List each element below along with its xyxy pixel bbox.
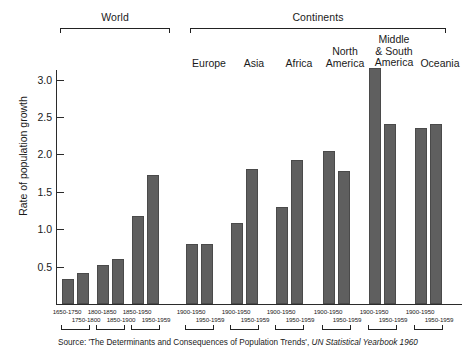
y-axis-tick-label: 3.0: [26, 74, 52, 86]
y-axis-line: [56, 70, 57, 304]
period-label: 1950-1959: [191, 316, 229, 323]
y-axis-tick: [57, 80, 64, 81]
continent-header-line: America: [367, 57, 421, 69]
continent-header-oceania: Oceania: [415, 58, 465, 70]
y-axis-tick: [57, 229, 64, 230]
period-label: 1950-1959: [420, 316, 458, 323]
continent-header-north-america: North America: [320, 46, 370, 69]
period-pair-bracket: [230, 325, 259, 330]
bar: [186, 244, 198, 304]
source-prefix: Source:: [58, 338, 86, 347]
period-pair-bracket: [368, 325, 397, 330]
period-label: 1950-1959: [374, 316, 412, 323]
period-label: 1800-1850: [83, 308, 121, 315]
continent-header-line: Africa: [276, 58, 322, 70]
continent-header-line: Europe: [186, 58, 232, 70]
period-label: 1850-1900: [102, 316, 140, 323]
period-pair-bracket: [185, 325, 214, 330]
bar: [201, 244, 213, 304]
bar: [231, 223, 243, 304]
bar: [112, 259, 124, 304]
continent-header-line: Middle: [367, 34, 421, 46]
bar: [132, 216, 144, 304]
period-label: 1950-1959: [236, 316, 274, 323]
y-axis-tick-label: 0.5: [26, 261, 52, 273]
continent-header-line: North: [320, 46, 370, 58]
continent-header-middle-south-america: Middle & South America: [367, 34, 421, 69]
supergroup-bracket-world: [60, 28, 170, 33]
period-pair-bracket: [414, 325, 443, 330]
period-label: 1900-1950: [262, 308, 300, 315]
bar: [62, 279, 74, 304]
continent-header-line: Asia: [231, 58, 277, 70]
continent-header-line: America: [320, 58, 370, 70]
period-label: 1900-1950: [172, 308, 210, 315]
period-label: 1950-1959: [328, 316, 366, 323]
continent-header-europe: Europe: [186, 58, 232, 70]
period-label: 1900-1950: [401, 308, 439, 315]
bar: [276, 207, 288, 304]
y-axis-tick: [57, 154, 64, 155]
period-label: 1950-1959: [137, 316, 175, 323]
bar: [384, 124, 396, 304]
y-axis-tick: [57, 267, 64, 268]
y-axis-tick: [57, 192, 64, 193]
period-label: 1850-1950: [118, 308, 156, 315]
bar: [323, 151, 335, 304]
y-axis-tick-label: 2.0: [26, 148, 52, 160]
y-axis-tick-label: 1.5: [26, 186, 52, 198]
period-pair-bracket: [61, 325, 90, 330]
source-quoted: 'The Determinants and Consequences of Po…: [89, 338, 310, 347]
continent-header-africa: Africa: [276, 58, 322, 70]
bar: [415, 128, 427, 304]
period-pair-bracket: [322, 325, 351, 330]
bar: [246, 169, 258, 304]
period-label: 1750-1800: [67, 316, 105, 323]
x-axis-baseline: [56, 304, 462, 305]
source-note: Source: 'The Determinants and Consequenc…: [58, 338, 418, 347]
continent-header-asia: Asia: [231, 58, 277, 70]
y-axis-tick-label: 2.5: [26, 111, 52, 123]
population-growth-bar-chart: World Continents Europe Asia Africa Nort…: [0, 0, 474, 357]
continent-header-line: Oceania: [415, 58, 465, 70]
bar: [147, 175, 159, 304]
period-pair-bracket: [96, 325, 125, 330]
period-label: 1900-1950: [355, 308, 393, 315]
period-pair-bracket: [275, 325, 304, 330]
bar: [97, 265, 109, 304]
period-label: 1900-1950: [217, 308, 255, 315]
period-pair-bracket: [131, 325, 160, 330]
bar: [77, 273, 89, 304]
y-axis-tick: [57, 117, 64, 118]
bar: [291, 160, 303, 304]
bar: [338, 171, 350, 304]
period-label: 1950-1959: [281, 316, 319, 323]
supergroup-label-world: World: [60, 11, 170, 23]
bar: [369, 68, 381, 304]
period-label: 1900-1950: [309, 308, 347, 315]
supergroup-label-continents: Continents: [190, 11, 446, 23]
source-publication: UN Statistical Yearbook 1960: [311, 338, 417, 347]
period-label: 1650-1750: [48, 308, 86, 315]
bar: [430, 124, 442, 304]
y-axis-tick-label: 1.0: [26, 223, 52, 235]
